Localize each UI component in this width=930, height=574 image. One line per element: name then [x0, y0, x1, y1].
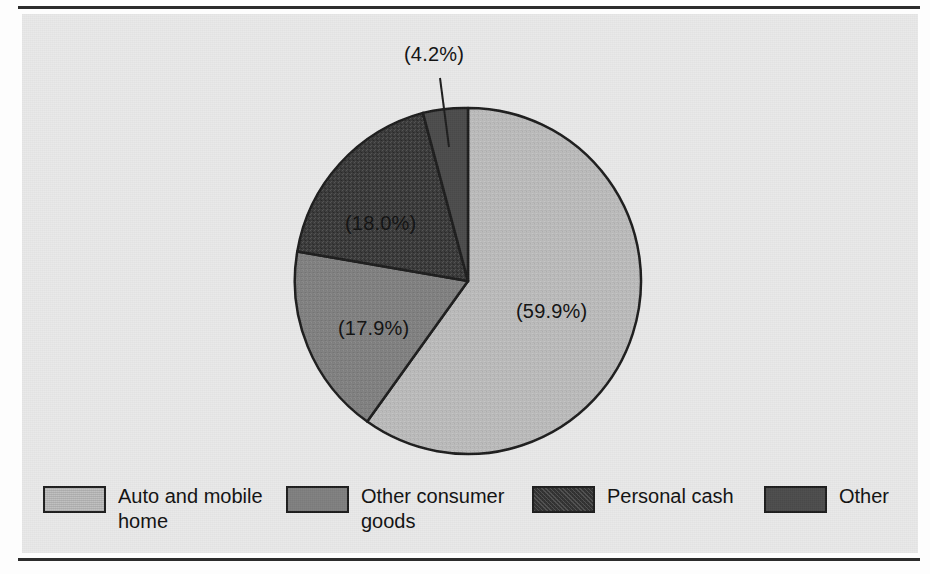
- legend-item-personal-cash[interactable]: Personal cash: [532, 484, 734, 513]
- pie-chart-figure: (59.9%) (17.9%) (18.0%) (4.2%) Auto and …: [0, 0, 930, 574]
- legend-item-other[interactable]: Other: [764, 484, 889, 513]
- legend-item-other-consumer-goods[interactable]: Other consumer goods: [286, 484, 521, 534]
- bottom-rule: [18, 558, 920, 561]
- slice-label-auto-and-mobile-home: (59.9%): [516, 300, 587, 323]
- legend-item-auto-and-mobile-home[interactable]: Auto and mobile home: [43, 484, 278, 534]
- pie-chart-svg: [22, 14, 918, 553]
- legend-swatch-personal-cash: [532, 486, 595, 513]
- legend-label-other-consumer-goods: Other consumer goods: [361, 484, 521, 534]
- slice-label-personal-cash: (18.0%): [345, 212, 416, 235]
- top-rule: [18, 6, 920, 9]
- legend-label-personal-cash: Personal cash: [607, 484, 734, 509]
- slice-label-other-consumer-goods: (17.9%): [338, 317, 409, 340]
- chart-legend: Auto and mobile home Other consumer good…: [22, 484, 918, 548]
- legend-swatch-other-consumer-goods: [286, 486, 349, 513]
- legend-swatch-auto-and-mobile-home: [43, 486, 106, 513]
- legend-label-auto-and-mobile-home: Auto and mobile home: [118, 484, 278, 534]
- slice-label-other: (4.2%): [404, 43, 464, 66]
- chart-panel: (59.9%) (17.9%) (18.0%) (4.2%) Auto and …: [22, 14, 918, 553]
- legend-label-other: Other: [839, 484, 889, 509]
- legend-swatch-other: [764, 486, 827, 513]
